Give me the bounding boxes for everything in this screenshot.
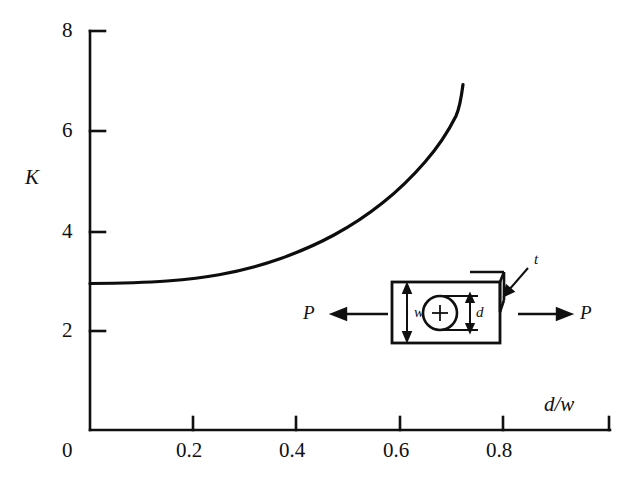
chart-canvas — [0, 0, 635, 496]
y-axis-ticks — [90, 31, 105, 331]
axis-group — [90, 31, 610, 430]
x-axis-ticks — [193, 417, 609, 430]
inset-load-label-left: P — [303, 303, 315, 322]
stress-concentration-figure: 8 6 4 2 0 0.2 0.4 0.6 0.8 K d/w P P w d … — [0, 0, 635, 496]
data-curve — [90, 85, 463, 284]
thickness-leader-arrow — [504, 268, 528, 296]
y-axis-label: K — [25, 167, 39, 188]
load-arrow-right — [518, 309, 571, 320]
x-tick-label-0p8: 0.8 — [486, 440, 512, 461]
hole-center-cross — [432, 305, 448, 321]
x-tick-label-0p4: 0.4 — [279, 440, 305, 461]
inset-hole-diameter-label: d — [476, 305, 484, 320]
inset-load-label-right: P — [580, 303, 592, 322]
width-dimension-arrow — [403, 284, 411, 341]
y-tick-label-2: 2 — [62, 320, 73, 341]
load-arrow-left — [332, 309, 388, 320]
inset-width-label: w — [414, 305, 424, 320]
inset-thickness-label: t — [534, 252, 538, 267]
y-tick-label-4: 4 — [62, 221, 73, 242]
y-tick-label-6: 6 — [62, 120, 73, 141]
y-tick-label-8: 8 — [62, 20, 73, 41]
x-tick-label-0p6: 0.6 — [383, 440, 409, 461]
x-tick-label-0p2: 0.2 — [176, 440, 202, 461]
x-axis-label: d/w — [544, 394, 574, 415]
plate-with-hole-inset — [332, 268, 571, 343]
y-tick-label-0: 0 — [62, 440, 73, 461]
